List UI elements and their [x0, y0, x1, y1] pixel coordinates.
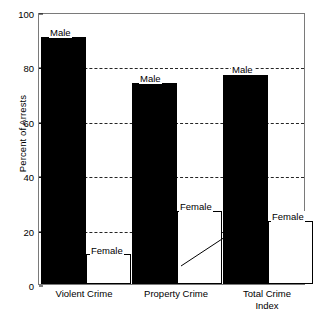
bar-label-male-total-crime-index: Male	[231, 64, 254, 75]
y-tick-60-label: 60	[23, 117, 34, 128]
y-tick-20: 20	[23, 226, 39, 237]
x-category-label-violent-crime: Violent Crime	[38, 288, 130, 300]
y-tick-100-label: 100	[18, 9, 34, 20]
bar-label-female-property-crime: Female	[179, 201, 213, 212]
bar-female-total-crime-index[interactable]	[268, 221, 313, 284]
x-category-label-total-crime-index: Total Crime Index	[221, 288, 313, 311]
bar-chart: Percent of Arrests 100 80 60 40 20 0 Mal…	[0, 0, 318, 320]
bar-label-female-total-crime-index: Female	[271, 211, 305, 222]
bar-label-male-property-crime: Male	[139, 73, 162, 84]
y-tick-40-label: 40	[23, 172, 34, 183]
bar-female-property-crime[interactable]	[177, 211, 222, 284]
bar-label-male-violent-crime: Male	[49, 27, 72, 38]
bar-female-violent-crime[interactable]	[86, 254, 131, 284]
y-tick-60: 60	[23, 117, 39, 128]
bar-male-property-crime[interactable]	[132, 83, 177, 284]
y-tick-0-label: 0	[29, 281, 34, 292]
bar-male-total-crime-index[interactable]	[223, 75, 268, 284]
y-tick-40: 40	[23, 172, 39, 183]
y-tick-80-label: 80	[23, 63, 34, 74]
y-tick-mark	[39, 14, 43, 15]
y-tick-mark	[39, 286, 43, 287]
y-tick-20-label: 20	[23, 226, 34, 237]
y-tick-100: 100	[18, 9, 39, 20]
y-tick-80: 80	[23, 63, 39, 74]
bar-label-female-violent-crime: Female	[90, 245, 124, 256]
x-category-label-property-crime: Property Crime	[130, 288, 222, 300]
plot-area: 100 80 60 40 20 0 Male Female Male Femal…	[38, 13, 305, 285]
bar-male-violent-crime[interactable]	[41, 37, 86, 285]
